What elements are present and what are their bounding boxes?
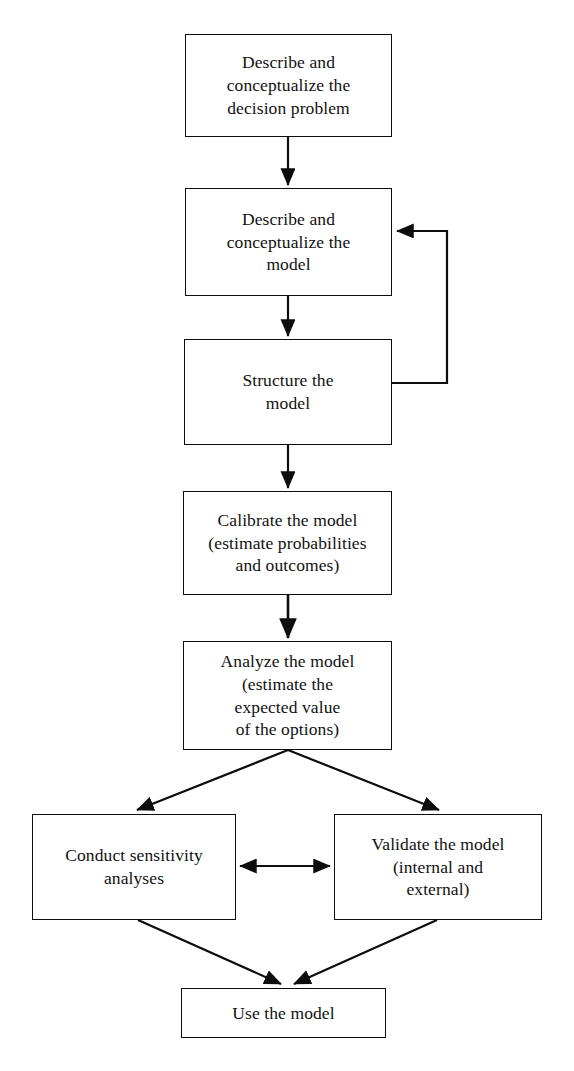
connector-structure-feedback-loop bbox=[392, 231, 447, 383]
node-label: Validate the model (internal and externa… bbox=[371, 833, 504, 901]
node-label: Structure the model bbox=[242, 369, 333, 415]
node-validate-model[interactable]: Validate the model (internal and externa… bbox=[334, 814, 542, 920]
node-label: Describe and conceptualize the decision … bbox=[227, 51, 351, 119]
connector-sensitivity-to-use bbox=[138, 920, 281, 984]
connector-analyze-to-validate bbox=[288, 750, 439, 810]
node-label: Calibrate the model (estimate probabilit… bbox=[208, 509, 366, 577]
node-structure-model[interactable]: Structure the model bbox=[184, 339, 392, 445]
node-conduct-sensitivity-analyses[interactable]: Conduct sensitivity analyses bbox=[32, 814, 236, 920]
node-describe-decision-problem[interactable]: Describe and conceptualize the decision … bbox=[185, 34, 392, 137]
connector-analyze-to-sensitivity bbox=[137, 750, 288, 810]
node-label: Conduct sensitivity analyses bbox=[65, 844, 203, 890]
node-use-model[interactable]: Use the model bbox=[181, 988, 386, 1038]
flowchart-diagram: Describe and conceptualize the decision … bbox=[0, 0, 574, 1071]
connector-validate-to-use bbox=[294, 920, 437, 984]
node-label: Use the model bbox=[232, 1002, 334, 1025]
node-label: Analyze the model (estimate the expected… bbox=[221, 650, 355, 741]
node-label: Describe and conceptualize the model bbox=[227, 208, 351, 276]
node-describe-model[interactable]: Describe and conceptualize the model bbox=[185, 188, 392, 296]
node-analyze-model[interactable]: Analyze the model (estimate the expected… bbox=[183, 641, 392, 750]
node-calibrate-model[interactable]: Calibrate the model (estimate probabilit… bbox=[183, 491, 392, 595]
